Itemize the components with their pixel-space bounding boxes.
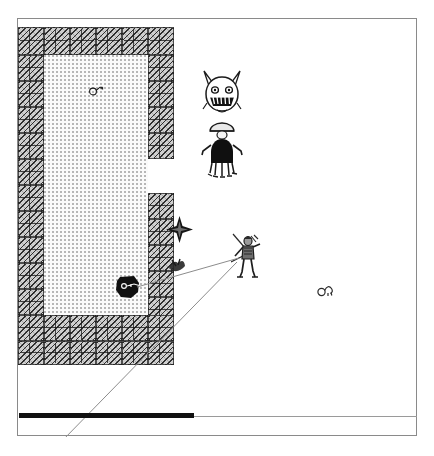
wall-tile	[18, 107, 44, 133]
wall-tile	[96, 27, 122, 55]
wall-tile	[148, 81, 174, 107]
wall-tile	[122, 315, 148, 341]
wall-tile	[96, 341, 122, 365]
item-keyring-in-field[interactable]	[317, 282, 335, 298]
wall-tile	[44, 341, 70, 365]
wall-tile	[18, 237, 44, 263]
imp-face-icon	[201, 69, 243, 119]
wall-tile	[148, 55, 174, 81]
scuff-icon	[166, 254, 188, 276]
wall-tile	[148, 107, 174, 133]
wraith-icon	[201, 121, 243, 179]
wall-tile	[18, 289, 44, 315]
wall-tile	[122, 341, 148, 365]
wall-tile	[18, 341, 44, 365]
wall-tile	[148, 341, 174, 365]
wall-tile	[122, 27, 148, 55]
status-bar-fill[interactable]	[19, 413, 194, 418]
keyring-icon	[317, 282, 335, 298]
wall-tile	[18, 55, 44, 81]
screen-root	[0, 0, 434, 456]
wall-tile	[70, 341, 96, 365]
adventurer-icon	[231, 232, 265, 279]
wall-tile	[18, 315, 44, 341]
burst-icon	[165, 215, 194, 244]
boulder-icon	[115, 274, 140, 299]
keyring-icon	[89, 83, 105, 97]
wall-tile	[18, 133, 44, 159]
wall-scuff	[166, 254, 188, 276]
wall-tile	[18, 81, 44, 107]
wall-tile	[44, 315, 70, 341]
wall-tile	[18, 263, 44, 289]
wall-tile	[44, 27, 70, 55]
game-viewport[interactable]	[17, 18, 417, 436]
wall-tile	[148, 315, 174, 341]
rubble-burst	[165, 215, 194, 244]
wall-tile	[18, 211, 44, 237]
wall-tile	[148, 133, 174, 159]
wall-tile	[96, 315, 122, 341]
wall-tile	[18, 27, 44, 55]
boulder-object[interactable]	[115, 274, 140, 299]
entity-imp[interactable]	[201, 69, 243, 119]
item-keyring-in-room[interactable]	[89, 83, 105, 97]
entity-player[interactable]	[231, 232, 265, 279]
wall-tile	[70, 315, 96, 341]
wall-tile	[70, 27, 96, 55]
wall-tile	[148, 27, 174, 55]
wall-tile	[18, 159, 44, 185]
entity-wraith[interactable]	[201, 121, 243, 179]
wall-tile	[18, 185, 44, 211]
